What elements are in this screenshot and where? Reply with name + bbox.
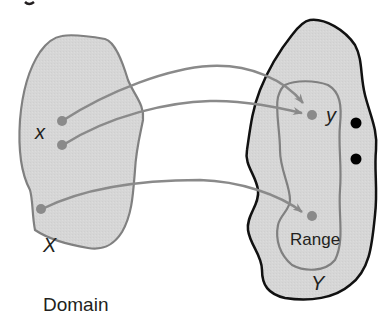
function-mapping-diagram: x X Domain y Range Y (0, 0, 390, 325)
range-label: Range (290, 230, 340, 249)
set-label-X: X (42, 234, 57, 256)
cropped-glyph (25, 2, 34, 4)
element-label-y: y (324, 104, 337, 126)
domain-caption: Domain (43, 294, 108, 315)
domain-point-3 (36, 204, 46, 214)
range-point-2 (307, 211, 317, 221)
domain-point-x2 (57, 140, 67, 150)
unmapped-point-1 (351, 118, 362, 129)
element-label-x: x (34, 121, 46, 143)
range-point-y (307, 110, 317, 120)
domain-point-x1 (57, 116, 67, 126)
set-label-Y: Y (311, 272, 326, 294)
unmapped-point-2 (351, 154, 362, 165)
